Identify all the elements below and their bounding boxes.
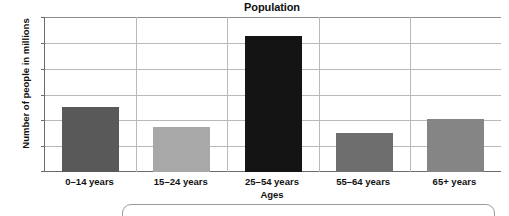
- bar: [427, 119, 484, 172]
- bar: [245, 36, 302, 172]
- x-axis-title: Ages: [44, 189, 500, 200]
- x-tick-label: 55–64 years: [318, 176, 409, 187]
- y-tick-mark-2: [41, 146, 45, 147]
- y-tick-mark-8: [41, 69, 45, 70]
- bar: [62, 107, 119, 172]
- y-tick-mark-6: [41, 95, 45, 96]
- y-tick-mark-10: [41, 43, 45, 44]
- category-separator-3: [319, 17, 320, 172]
- bar: [153, 127, 210, 172]
- x-tick-label: 25–54 years: [226, 176, 317, 187]
- y-tick-mark-4: [41, 120, 45, 121]
- plot-area: [44, 17, 500, 172]
- bar: [336, 133, 393, 172]
- category-separator-2: [227, 17, 228, 172]
- y-tick-mark-12: [41, 17, 45, 18]
- x-tick-label: 65+ years: [409, 176, 500, 187]
- category-separator-1: [136, 17, 137, 172]
- chart-title: Population: [44, 1, 500, 14]
- category-separator-4: [410, 17, 411, 172]
- gridline-12: [45, 17, 501, 18]
- callout-box: [122, 204, 495, 216]
- y-tick-mark-0: [41, 171, 45, 172]
- x-tick-label: 0–14 years: [44, 176, 135, 187]
- population-bar-chart-figure: Population Number of people in millions …: [0, 0, 509, 216]
- x-tick-label: 15–24 years: [135, 176, 226, 187]
- y-axis-title: Number of people in millions: [20, 4, 31, 164]
